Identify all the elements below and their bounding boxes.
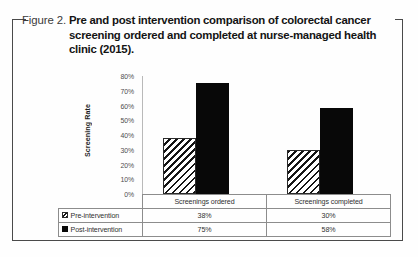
table-row: Pre-intervention 38% 30% [59, 209, 391, 223]
bar-pre-intervention-0 [163, 138, 196, 194]
figure-border-top-right [395, 19, 403, 20]
figure-border-bottom [12, 240, 403, 241]
y-axis-tick-10: 10% [121, 176, 135, 183]
legend-label-pre-intervention: Pre-intervention [71, 212, 119, 220]
table-header-screenings-ordered: Screenings ordered [143, 195, 267, 209]
table-header-screenings-completed: Screenings completed [267, 195, 391, 209]
chart-data-table: Screenings ordered Screenings completed … [58, 194, 391, 237]
bar-post-intervention-0 [196, 83, 229, 194]
hatch-swatch-icon [62, 212, 68, 218]
y-axis-tick-40: 40% [121, 132, 135, 139]
legend-item-pre-intervention: Pre-intervention [59, 209, 143, 223]
y-axis-tick-labels: 0%10%20%30%40%50%60%70%80% [104, 76, 138, 194]
y-axis-tick-50: 50% [121, 117, 135, 124]
legend-item-post-intervention: Post-intervention [59, 223, 143, 237]
y-axis-tick-60: 60% [121, 102, 135, 109]
figure-caption: Figure 2. Pre and post intervention comp… [22, 13, 394, 57]
table-header-row: Screenings ordered Screenings completed [59, 195, 391, 209]
cell-pre-ordered: 38% [143, 209, 267, 223]
y-axis-tick-70: 70% [121, 87, 135, 94]
solid-swatch-icon [62, 226, 68, 232]
y-axis-tick-20: 20% [121, 161, 135, 168]
bar-pre-intervention-1 [287, 150, 320, 194]
y-axis-tick-30: 30% [121, 146, 135, 153]
chart-plot-area [142, 76, 391, 195]
bar-group-1 [267, 76, 391, 194]
cell-pre-completed: 30% [267, 209, 391, 223]
table-corner-cell [59, 195, 143, 209]
y-axis-title: Screening Rate [84, 104, 98, 157]
table-row: Post-intervention 75% 58% [59, 223, 391, 237]
figure-number-label: Figure 2. [22, 13, 66, 28]
cell-post-ordered: 75% [143, 223, 267, 237]
legend-label-post-intervention: Post-intervention [71, 226, 123, 234]
cell-post-completed: 58% [267, 223, 391, 237]
figure-caption-text: Pre and post intervention comparison of … [69, 13, 394, 57]
figure-border-left [12, 19, 13, 241]
figure-border-right [402, 19, 403, 241]
y-axis-tick-80: 80% [121, 73, 135, 80]
bar-post-intervention-1 [320, 108, 353, 194]
bar-group-0 [143, 76, 267, 194]
